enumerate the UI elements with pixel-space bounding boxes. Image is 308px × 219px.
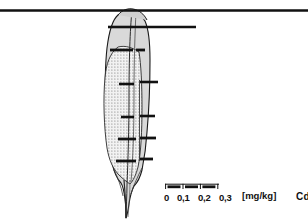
legend-segment-2 — [185, 185, 198, 188]
legend-tick-label-1: 0,1 — [177, 192, 190, 203]
cd-scale-legend: 0 0,1 0,2 0,3 [mg/kg] Cd — [160, 183, 308, 213]
legend-segment-1 — [168, 185, 181, 188]
legend-tick-label-2: 0,2 — [198, 192, 211, 203]
legend-tick-label-0: 0 — [164, 192, 169, 203]
legend-tick-label-3: 0,3 — [219, 192, 232, 203]
legend-unit-label: [mg/kg] — [242, 190, 276, 201]
legend-scale-bar — [165, 183, 219, 192]
legend-element-label: Cd — [296, 191, 308, 202]
legend-segment-3 — [202, 185, 215, 188]
